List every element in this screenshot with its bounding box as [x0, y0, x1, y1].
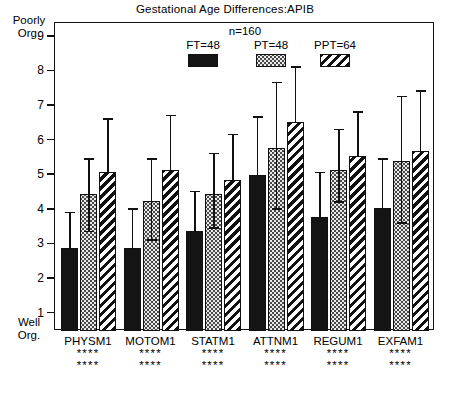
error-bar-cap-top: [378, 158, 388, 160]
error-bar-ppt-regum1: [357, 111, 359, 156]
bar-ft-attnm1[interactable]: [249, 175, 266, 331]
y-tick-label: 7: [20, 99, 44, 111]
error-bar-cap-top: [103, 118, 113, 120]
error-bar-ppt-exfam1: [420, 90, 422, 151]
error-bar-cap-top: [334, 129, 344, 131]
error-bar-ft-attnm1: [257, 116, 259, 175]
error-bar-pt-physm1: [88, 158, 90, 232]
error-bar-cap-bottom: [397, 222, 407, 224]
y-tick-label: 5: [20, 168, 44, 180]
error-bar-ppt-motom1: [170, 115, 172, 170]
error-bar-cap-bottom: [272, 208, 282, 210]
error-bar-ft-exfam1: [382, 158, 384, 208]
error-bar-cap-top: [291, 66, 301, 68]
error-bar-cap-top: [128, 208, 138, 210]
error-bar-ppt-statm1: [232, 134, 234, 181]
error-bar-cap-top: [84, 158, 94, 160]
error-bar-cap-bottom: [334, 201, 344, 203]
y-tick-label: 2: [20, 272, 44, 284]
y-tick-label: 3: [20, 237, 44, 249]
chart-root: Gestational Age Differences:APIB Poorly …: [0, 0, 450, 404]
bar-ppt-attnm1[interactable]: [287, 122, 304, 331]
error-bar-cap-top: [397, 96, 407, 98]
error-bar-ft-regum1: [319, 172, 321, 217]
x-label-group-exfam1: EXFAM1********: [363, 334, 439, 371]
significance-stars-row2: ****: [363, 360, 439, 372]
error-bar-cap-top: [166, 115, 176, 117]
y-tick-label: 9: [20, 30, 44, 42]
y-tick-label: 8: [20, 64, 44, 76]
bar-ft-regum1[interactable]: [311, 217, 328, 331]
bar-ft-exfam1[interactable]: [374, 208, 391, 331]
error-bar-ft-statm1: [194, 191, 196, 231]
error-bar-cap-top: [353, 111, 363, 113]
error-bar-ft-physm1: [69, 212, 71, 248]
bar-ft-statm1[interactable]: [186, 231, 203, 331]
y-tick-label: 6: [20, 134, 44, 146]
chart-title: Gestational Age Differences:APIB: [0, 3, 450, 15]
bar-ft-physm1[interactable]: [61, 248, 78, 331]
error-bar-pt-regum1: [338, 129, 340, 203]
error-bar-cap-top: [147, 158, 157, 160]
bar-ppt-statm1[interactable]: [224, 180, 241, 331]
bar-ppt-regum1[interactable]: [349, 156, 366, 331]
x-axis-label: EXFAM1: [363, 334, 439, 348]
y-axis-bottom-caption-line2: Org.: [6, 329, 52, 342]
bar-ppt-motom1[interactable]: [162, 170, 179, 331]
bar-group-motom1: [124, 23, 180, 331]
error-bar-cap-top: [416, 90, 426, 92]
significance-stars-row1: ****: [363, 348, 439, 360]
bars-layer: [55, 23, 435, 331]
error-bar-ppt-attnm1: [295, 66, 297, 121]
bar-ppt-physm1[interactable]: [99, 172, 116, 331]
bar-group-attnm1: [249, 23, 305, 331]
error-bar-ppt-physm1: [107, 118, 109, 172]
error-bar-cap-bottom: [147, 239, 157, 241]
bar-group-regum1: [311, 23, 367, 331]
error-bar-cap-top: [253, 116, 263, 118]
error-bar-cap-bottom: [209, 227, 219, 229]
error-bar-cap-top: [209, 153, 219, 155]
bar-group-exfam1: [374, 23, 430, 331]
y-tick-label: 4: [20, 203, 44, 215]
error-bar-cap-top: [272, 82, 282, 84]
error-bar-cap-top: [315, 172, 325, 174]
error-bar-pt-attnm1: [276, 82, 278, 210]
y-tick-label: 1: [20, 307, 44, 319]
x-axis-labels: PHYSM1********MOTOM1********STATM1******…: [54, 334, 434, 400]
bar-group-statm1: [186, 23, 242, 331]
error-bar-pt-statm1: [213, 153, 215, 229]
error-bar-cap-bottom: [84, 231, 94, 233]
error-bar-cap-top: [228, 134, 238, 136]
bar-ft-motom1[interactable]: [124, 248, 141, 331]
plot-area: n=160 FT=48PT=48PPT=64: [54, 22, 434, 330]
bar-group-physm1: [61, 23, 117, 331]
bar-ppt-exfam1[interactable]: [412, 151, 429, 331]
error-bar-ft-motom1: [132, 208, 134, 248]
error-bar-pt-motom1: [151, 158, 153, 241]
error-bar-cap-top: [190, 191, 200, 193]
error-bar-pt-exfam1: [401, 96, 403, 224]
error-bar-cap-top: [65, 212, 75, 214]
